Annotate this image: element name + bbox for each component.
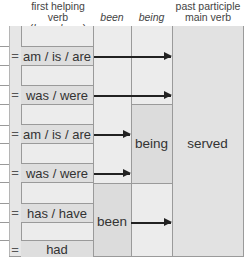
stub-line <box>0 46 9 47</box>
verb-cell: am / is / are <box>21 124 93 144</box>
stub-line <box>0 240 9 241</box>
verb-cell: am / is / are <box>21 46 93 66</box>
equals-sign: = <box>9 48 21 63</box>
grid-line <box>243 26 244 256</box>
stub-line <box>0 104 9 105</box>
stub-line <box>0 125 9 126</box>
arrow-icon <box>94 173 130 175</box>
arrow-icon <box>94 56 171 58</box>
verb-cell: was / were <box>21 85 93 105</box>
stub-line <box>0 65 9 66</box>
equals-sign: = <box>9 242 21 257</box>
being-label: being <box>131 136 172 151</box>
header-first-helping-verb-line1: first helping verb <box>20 1 96 23</box>
verb-cell: was / were <box>21 163 93 183</box>
been-label: been <box>93 214 131 229</box>
header-been: been <box>93 12 131 23</box>
verb-cell: has / have <box>21 203 93 223</box>
stub-line <box>0 203 9 204</box>
stub-line <box>0 85 9 86</box>
arrow-icon <box>131 222 171 224</box>
stub-line <box>0 164 9 165</box>
stub-line <box>0 143 9 144</box>
equals-sign: = <box>9 205 21 220</box>
header-being: being <box>131 12 172 23</box>
grid-line <box>93 183 172 184</box>
header-past-participle-line2: main verb <box>168 12 247 23</box>
stub-line <box>0 182 9 183</box>
arrow-icon <box>94 134 130 136</box>
equals-sign: = <box>9 87 21 102</box>
verb-cell: had <box>21 240 93 257</box>
arrow-icon <box>94 95 171 97</box>
main-verb-label: served <box>172 136 243 151</box>
equals-sign: = <box>9 165 21 180</box>
stub-line <box>0 222 9 223</box>
equals-sign: = <box>9 126 21 141</box>
header-past-participle: past participle main verb <box>168 1 247 23</box>
grid-line <box>131 104 172 105</box>
